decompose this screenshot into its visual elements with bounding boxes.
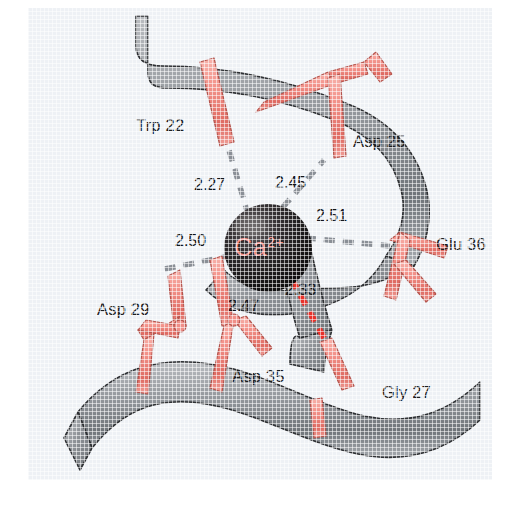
distance-label-glu36: 2.51 (316, 207, 347, 225)
residue-label-asp25: Asp 25 (353, 132, 406, 151)
residue-label-glu36: Glu 36 (436, 235, 486, 254)
distance-label-asp29: 2.50 (175, 232, 206, 250)
structure-illustration: Ca2+ Trp 22 Asp 25 Glu 36 Asp 29 Asp 35 … (28, 8, 492, 480)
distance-label-trp22: 2.27 (194, 176, 225, 194)
residue-label-gly27: Gly 27 (382, 383, 431, 402)
distance-label-asp35: 2.47 (228, 297, 259, 315)
distance-label-gly27: 2.33 (285, 281, 316, 299)
residue-label-asp29: Asp 29 (97, 300, 150, 319)
residue-label-asp35: Asp 35 (232, 367, 285, 386)
residue-label-trp22: Trp 22 (136, 116, 184, 135)
distance-label-asp25: 2.45 (275, 174, 306, 192)
figure-panel: Ca2+ Trp 22 Asp 25 Glu 36 Asp 29 Asp 35 … (0, 0, 511, 510)
calcium-ion-label: Ca2+ (234, 233, 284, 262)
